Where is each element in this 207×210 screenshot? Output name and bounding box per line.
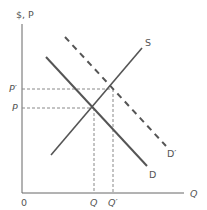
- supply-label: S: [145, 37, 151, 48]
- new-demand-curve: [65, 37, 166, 146]
- x-axis-label: Q: [190, 188, 198, 199]
- demand-curve: [46, 57, 147, 166]
- price-label: P: [12, 102, 18, 113]
- supply-curve: [51, 48, 142, 155]
- quantity-label: Q: [90, 197, 98, 208]
- y-axis-label: $, P: [16, 9, 34, 20]
- new-demand-label: D′: [167, 148, 176, 159]
- new-price-label: P′: [9, 83, 18, 94]
- new-quantity-label: Q′: [108, 197, 118, 208]
- origin-label: 0: [21, 197, 27, 208]
- demand-label: D: [149, 169, 156, 180]
- supply-demand-diagram: $, P Q 0 S D D′ P′ P Q Q′: [0, 0, 207, 210]
